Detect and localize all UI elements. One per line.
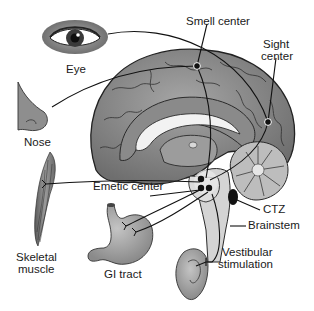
gi-tract-illustration — [88, 203, 153, 264]
emetic-center-node-1 — [198, 176, 204, 182]
ctz-marker — [228, 189, 238, 205]
label-smell-center: Smell center — [186, 15, 250, 28]
label-brainstem: Brainstem — [248, 219, 300, 232]
ear-illustration — [176, 249, 208, 300]
smell-center-node — [194, 63, 201, 70]
sight-center-node — [265, 119, 272, 126]
label-ctz: CTZ — [263, 203, 285, 216]
emetic-center-node-2 — [198, 185, 204, 191]
label-nose: Nose — [24, 136, 51, 149]
label-sight-center-line2: center — [261, 50, 293, 63]
emetic-center-node-3 — [206, 185, 212, 191]
eye-illustration — [42, 20, 108, 54]
skeletal-muscle-illustration — [35, 152, 56, 246]
nose-illustration — [18, 82, 47, 131]
cerebellum — [230, 142, 288, 200]
label-gi-tract: GI tract — [104, 268, 142, 281]
label-emetic-center: Emetic center — [93, 180, 163, 193]
label-vestibular-line2: stimulation — [218, 258, 273, 271]
label-eye: Eye — [66, 63, 86, 76]
label-skeletal-muscle-line2: muscle — [18, 263, 54, 276]
